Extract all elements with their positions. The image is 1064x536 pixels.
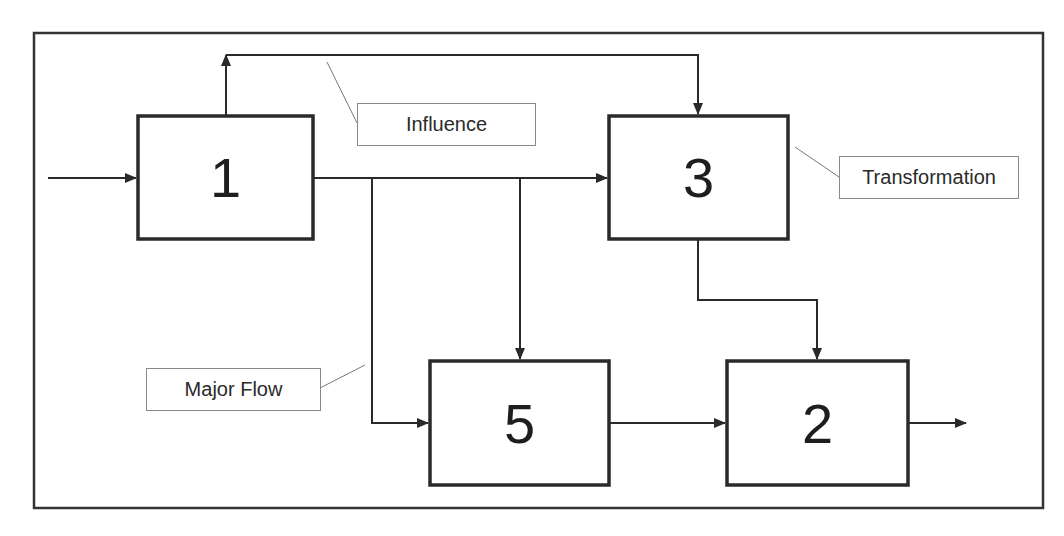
block-1-label: 1 xyxy=(210,145,241,210)
block-1: 1 xyxy=(138,116,313,239)
block-5-label: 5 xyxy=(504,391,535,456)
block-3: 3 xyxy=(609,116,788,239)
influence-callout: Influence xyxy=(357,103,536,146)
block-2-label: 2 xyxy=(802,391,833,456)
transformation-callout-text: Transformation xyxy=(862,166,996,189)
flow-branch-left-to-5-arrow xyxy=(372,178,428,423)
block-2: 2 xyxy=(727,361,908,485)
flow-3-to-2-arrow xyxy=(698,239,817,359)
influence-leader-line xyxy=(327,62,357,123)
transformation-callout: Transformation xyxy=(839,156,1019,199)
major-flow-callout: Major Flow xyxy=(146,368,321,411)
major-flow-callout-text: Major Flow xyxy=(185,378,283,401)
block-5: 5 xyxy=(430,361,609,485)
influence-callout-text: Influence xyxy=(406,113,487,136)
block-3-label: 3 xyxy=(683,145,714,210)
transformation-leader-line xyxy=(795,147,839,177)
major-flow-leader-line xyxy=(320,365,365,388)
